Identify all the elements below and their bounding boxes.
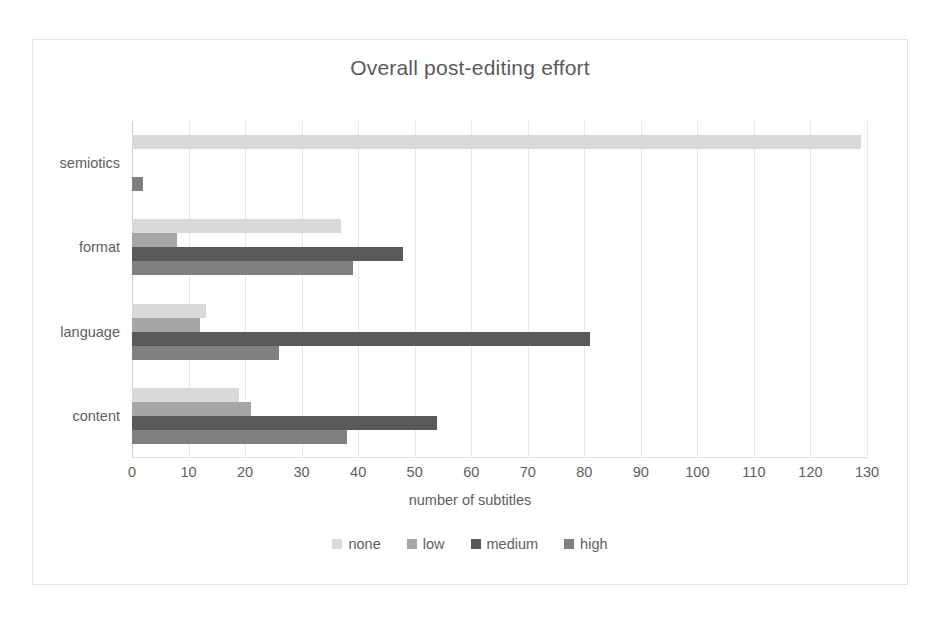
bar-row xyxy=(132,346,867,360)
bar-row xyxy=(132,261,867,275)
x-tick-label: 60 xyxy=(463,464,479,480)
bar-row xyxy=(132,304,867,318)
x-tick-label: 0 xyxy=(128,464,136,480)
legend-item-none[interactable]: none xyxy=(332,536,380,552)
bar-row xyxy=(132,318,867,332)
x-tick-label: 130 xyxy=(855,464,879,480)
bar-row xyxy=(132,163,867,177)
x-tick-label: 70 xyxy=(520,464,536,480)
gridline-130 xyxy=(867,121,868,458)
x-tick-label: 40 xyxy=(350,464,366,480)
legend-item-medium[interactable]: medium xyxy=(471,536,539,552)
bar-row xyxy=(132,388,867,402)
legend-swatch-high xyxy=(564,539,574,549)
bar-format-low[interactable] xyxy=(132,233,177,247)
legend-item-high[interactable]: high xyxy=(564,536,607,552)
bar-semiotics-high[interactable] xyxy=(132,177,143,191)
bar-semiotics-none[interactable] xyxy=(132,135,861,149)
legend-label: medium xyxy=(487,536,539,552)
x-tick-label: 10 xyxy=(180,464,196,480)
chart-legend: nonelowmediumhigh xyxy=(33,536,907,552)
bar-language-high[interactable] xyxy=(132,346,279,360)
x-tick-label: 50 xyxy=(407,464,423,480)
bar-content-low[interactable] xyxy=(132,402,251,416)
bar-row xyxy=(132,247,867,261)
x-tick-label: 20 xyxy=(237,464,253,480)
legend-item-low[interactable]: low xyxy=(407,536,445,552)
bar-language-low[interactable] xyxy=(132,318,200,332)
category-label-semiotics: semiotics xyxy=(60,155,120,171)
bar-row xyxy=(132,430,867,444)
x-tick-label: 30 xyxy=(294,464,310,480)
legend-label: low xyxy=(423,536,445,552)
x-axis-tick-labels: 0102030405060708090100110120130 xyxy=(132,464,867,486)
bar-row xyxy=(132,219,867,233)
category-label-format: format xyxy=(79,239,120,255)
bar-row xyxy=(132,332,867,346)
bar-group-language: language xyxy=(132,290,867,374)
plot-area: semioticsformatlanguagecontent xyxy=(132,121,867,458)
chart-frame: Overall post-editing effort semioticsfor… xyxy=(32,39,908,585)
x-tick-label: 90 xyxy=(633,464,649,480)
bar-language-none[interactable] xyxy=(132,304,206,318)
bar-format-high[interactable] xyxy=(132,261,353,275)
bar-content-none[interactable] xyxy=(132,388,239,402)
bar-content-medium[interactable] xyxy=(132,416,437,430)
bar-row xyxy=(132,149,867,163)
legend-label: high xyxy=(580,536,607,552)
legend-swatch-medium xyxy=(471,539,481,549)
bar-format-medium[interactable] xyxy=(132,247,403,261)
legend-label: none xyxy=(348,536,380,552)
bar-row xyxy=(132,233,867,247)
legend-swatch-low xyxy=(407,539,417,549)
bar-row xyxy=(132,416,867,430)
bar-row xyxy=(132,402,867,416)
x-tick-label: 80 xyxy=(576,464,592,480)
chart-title: Overall post-editing effort xyxy=(33,56,907,80)
legend-swatch-none xyxy=(332,539,342,549)
bar-row xyxy=(132,135,867,149)
category-label-content: content xyxy=(72,408,120,424)
x-tick-label: 100 xyxy=(685,464,709,480)
bar-language-medium[interactable] xyxy=(132,332,590,346)
bar-content-high[interactable] xyxy=(132,430,347,444)
bar-group-format: format xyxy=(132,205,867,289)
x-tick-label: 110 xyxy=(742,464,765,480)
x-tick-label: 120 xyxy=(798,464,822,480)
bar-group-content: content xyxy=(132,374,867,458)
bar-row xyxy=(132,177,867,191)
category-label-language: language xyxy=(60,324,120,340)
bar-format-none[interactable] xyxy=(132,219,341,233)
bar-group-semiotics: semiotics xyxy=(132,121,867,205)
x-axis-title: number of subtitles xyxy=(33,492,907,508)
